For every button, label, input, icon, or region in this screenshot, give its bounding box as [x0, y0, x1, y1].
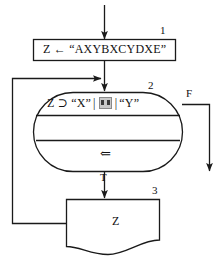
condition-separator-2: |	[113, 97, 120, 109]
true-branch-label: T	[100, 172, 107, 183]
false-branch-path	[182, 105, 210, 172]
flowchart-canvas	[0, 0, 219, 258]
condition-operand-left: Z ⊃ “X”	[47, 97, 91, 109]
step-number-1: 1	[160, 25, 166, 36]
condition-expression: Z ⊃ “X” | | “Y”	[47, 97, 139, 109]
document-text: Z	[112, 215, 120, 227]
unknown-glyph-icon	[99, 97, 112, 109]
step-number-3: 3	[152, 185, 158, 196]
condition-operand-right: “Y”	[119, 97, 139, 109]
false-branch-label: F	[186, 88, 192, 99]
assign-box-text: Z ← “AXYBXCYDXE”	[43, 43, 166, 55]
left-double-arrow-icon: ⇐	[100, 147, 111, 160]
flowchart-diagram: Z ← “AXYBXCYDXE” Z ⊃ “X” | | “Y” ⇐ Z 1 2…	[0, 0, 219, 258]
condition-separator-1: |	[91, 97, 98, 109]
step-number-2: 2	[148, 80, 154, 91]
